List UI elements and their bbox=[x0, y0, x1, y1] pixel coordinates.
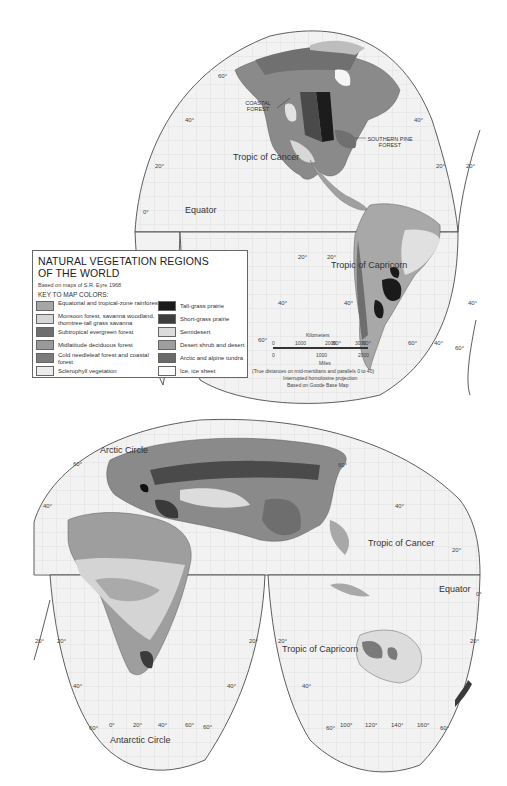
legend-item: Ice, ice sheet bbox=[158, 365, 248, 378]
legend-label: Midlatitude deciduous forest bbox=[58, 342, 163, 349]
legend-item: Arctic and alpine tundra bbox=[158, 352, 248, 365]
lat-s40-lower-a: 40° bbox=[73, 683, 82, 689]
scale-km-tick: 1000 bbox=[295, 340, 306, 346]
legend-item: Subtropical evergreen forest bbox=[36, 326, 161, 339]
lat-60-lower-right: 60° bbox=[338, 462, 347, 468]
legend-swatch bbox=[158, 366, 176, 376]
antarctic-circle-label: Antarctic Circle bbox=[110, 736, 171, 745]
scale-km-label: Kilometers bbox=[306, 332, 330, 338]
legend-item: Semidesert bbox=[158, 326, 248, 339]
legend-item: Desert shrub and desert bbox=[158, 339, 248, 352]
coastal-forest-line2: FOREST bbox=[247, 106, 269, 112]
lon-60-lower-d: 60° bbox=[326, 725, 335, 731]
atlantic-lobe-edge bbox=[458, 130, 480, 232]
lat-40-upper-left: 40° bbox=[185, 117, 194, 123]
legend-swatch bbox=[36, 353, 54, 363]
tropic-of-capricorn-label-lower: Tropic of Capricorn bbox=[282, 645, 358, 654]
lon-60-lower-b: 60° bbox=[185, 722, 194, 728]
legend-item: Monsoon forest, savanna woodland, thornt… bbox=[36, 313, 161, 326]
scale-bar-line bbox=[273, 347, 368, 349]
scale-mi-tick: 0 bbox=[272, 352, 275, 358]
lon-60-lower-e: 60° bbox=[440, 725, 449, 731]
scale-mi-tick: 1000 bbox=[316, 352, 327, 358]
lat-s20-upper-b: 20° bbox=[327, 254, 336, 260]
lon-60-upper-c: 60° bbox=[408, 340, 417, 346]
lon-60-lower-a: 60° bbox=[89, 725, 98, 731]
lower-map bbox=[34, 419, 480, 772]
equator-label-lower: Equator bbox=[439, 585, 471, 594]
lon-120-lower: 120° bbox=[365, 722, 377, 728]
lat-s20-lower-a: 20° bbox=[35, 638, 44, 644]
lon-40-upper: 40° bbox=[434, 340, 443, 346]
tropic-of-cancer-label-lower: Tropic of Cancer bbox=[368, 539, 434, 548]
legend-label: Sclerophyll vegetation bbox=[58, 368, 163, 375]
lon-20-lower: 20° bbox=[133, 722, 142, 728]
lon-100-lower: 100° bbox=[340, 722, 352, 728]
legend-column-right: Tall-grass prairie Short-grass prairie S… bbox=[158, 300, 248, 378]
lon-160-lower: 160° bbox=[417, 722, 429, 728]
equator-label-upper: Equator bbox=[185, 206, 217, 215]
legend-item: Cold needleleaf forest and coastal fores… bbox=[36, 352, 161, 365]
lat-20-upper-right: 20° bbox=[436, 163, 445, 169]
lon-40-lower: 40° bbox=[158, 722, 167, 728]
lat-s20-lower-e: 20° bbox=[470, 638, 479, 644]
legend-swatch bbox=[36, 366, 54, 376]
legend-column-left: Equatorial and tropical-zone rainforests… bbox=[36, 300, 161, 378]
legend-item: Midlatitude deciduous forest bbox=[36, 339, 161, 352]
lat-40-upper-right: 40° bbox=[414, 117, 423, 123]
vegetation-map-graphic bbox=[0, 0, 507, 786]
scale-note-distances: (True distances on mid-meridians and par… bbox=[252, 368, 374, 374]
legend-key-heading: KEY TO MAP COLORS: bbox=[38, 291, 108, 298]
lat-s20-lower-b: 20° bbox=[57, 638, 66, 644]
legend-swatch bbox=[158, 301, 176, 311]
lat-0-lower: 0° bbox=[476, 591, 482, 597]
legend-swatch bbox=[158, 353, 176, 363]
southern-pine-forest-label: SOUTHERN PINE FOREST bbox=[360, 136, 420, 148]
legend-swatch bbox=[158, 314, 176, 324]
lon-0-lower: 0° bbox=[109, 722, 115, 728]
arctic-circle-label: Arctic Circle bbox=[100, 446, 148, 455]
legend-swatch bbox=[158, 327, 176, 337]
scale-note-base-map: Based on Goode Base Map bbox=[287, 382, 348, 388]
legend-label: Tall-grass prairie bbox=[180, 303, 285, 310]
lat-60-upper: 60° bbox=[218, 73, 227, 79]
lat-60-lower-left: 60° bbox=[73, 461, 82, 467]
legend-label: Short-grass prairie bbox=[180, 316, 285, 323]
lon-60-lower-c: 60° bbox=[203, 724, 212, 730]
legend-swatch bbox=[36, 340, 54, 350]
legend-title-line1: NATURAL VEGETATION REGIONS bbox=[38, 255, 238, 267]
legend-source: Based on maps of S.R. Eyre 1968 bbox=[38, 282, 121, 288]
legend-item: Tall-grass prairie bbox=[158, 300, 248, 313]
lat-20-lower-right: 20° bbox=[452, 547, 461, 553]
lat-s40-upper-b: 40° bbox=[344, 300, 353, 306]
legend-label: Monsoon forest, savanna woodland, thornt… bbox=[58, 313, 163, 326]
legend-item: Sclerophyll vegetation bbox=[36, 365, 161, 378]
legend-label: Equatorial and tropical-zone rainforests bbox=[58, 300, 163, 307]
legend-swatch bbox=[36, 327, 54, 337]
lon-60-upper-d: 60° bbox=[455, 345, 464, 351]
tropic-of-capricorn-label-upper: Tropic of Capricorn bbox=[331, 261, 407, 270]
legend-label: Subtropical evergreen forest bbox=[58, 329, 163, 336]
lon-140-lower: 140° bbox=[391, 722, 403, 728]
lat-20-upper-left: 20° bbox=[155, 163, 164, 169]
legend-item: Short-grass prairie bbox=[158, 313, 248, 326]
legend-swatch bbox=[36, 314, 54, 324]
lat-s40-upper-c: 40° bbox=[468, 300, 477, 306]
southern-pine-line2: FOREST bbox=[379, 142, 401, 148]
scale-km-tick: 3000 bbox=[355, 340, 366, 346]
tropic-of-cancer-label-upper: Tropic of Cancer bbox=[233, 153, 299, 162]
map-legend: NATURAL VEGETATION REGIONS OF THE WORLD … bbox=[32, 250, 248, 378]
scale-km-tick: 0 bbox=[272, 340, 275, 346]
legend-title-line2: OF THE WORLD bbox=[38, 267, 238, 279]
coastal-forest-label: COASTAL FOREST bbox=[238, 100, 278, 112]
lat-s20-lower-d: 20° bbox=[278, 638, 287, 644]
legend-swatch bbox=[36, 301, 54, 311]
legend-item: Equatorial and tropical-zone rainforests bbox=[36, 300, 161, 313]
scale-note-projection: Interrupted homolosine projection bbox=[283, 375, 357, 381]
scale-mi-tick: 2000 bbox=[358, 352, 369, 358]
lat-0-upper: 0° bbox=[143, 209, 149, 215]
lat-40-lower-right: 40° bbox=[395, 503, 404, 509]
legend-title: NATURAL VEGETATION REGIONS OF THE WORLD bbox=[38, 255, 238, 279]
legend-swatch bbox=[158, 340, 176, 350]
scale-mi-label: Miles bbox=[319, 360, 331, 366]
